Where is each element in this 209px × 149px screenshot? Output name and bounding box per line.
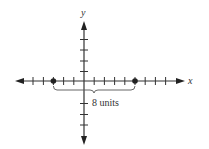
point-left	[51, 78, 57, 84]
x-axis-left-arrow-icon	[15, 78, 24, 84]
distance-brace	[53, 86, 135, 93]
y-axis-bottom-arrow-icon	[81, 136, 87, 145]
brace-label: 8 units	[92, 97, 119, 108]
y-axis-label: y	[80, 7, 86, 18]
y-axis-top-arrow-icon	[81, 21, 87, 30]
coordinate-plane: y x 8 units	[0, 0, 209, 149]
x-axis-right-arrow-icon	[176, 78, 185, 84]
x-axis-label: x	[187, 75, 193, 86]
point-right	[132, 78, 138, 84]
